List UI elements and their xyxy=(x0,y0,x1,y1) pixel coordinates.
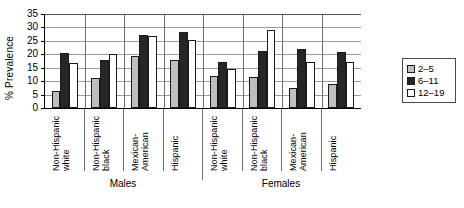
group-separator xyxy=(124,14,125,108)
bar xyxy=(100,60,109,108)
category-separator xyxy=(123,109,124,171)
plot-area xyxy=(44,14,361,109)
category-separator xyxy=(202,109,203,171)
y-axis-tick-label: 0 xyxy=(32,103,38,113)
category-separator xyxy=(163,109,164,171)
bar xyxy=(210,76,219,108)
bar xyxy=(139,35,148,108)
y-axis-tick-label: 10 xyxy=(27,76,38,86)
bar xyxy=(109,54,118,108)
category-separator xyxy=(242,109,243,171)
x-axis-category-label: Mexican- American xyxy=(289,109,308,171)
legend-item[interactable]: 2–5 xyxy=(407,63,452,74)
legend-item[interactable]: 6–11 xyxy=(407,75,452,86)
y-axis-tick-label: 30 xyxy=(27,22,38,32)
x-axis-category-label: Hispanic xyxy=(171,109,181,171)
x-axis-category-label: Hispanic xyxy=(329,109,339,171)
x-axis-group-label: Males xyxy=(44,178,202,189)
x-axis-category-label: Non-Hispanic black xyxy=(250,109,269,171)
group-separator xyxy=(322,14,323,108)
bar xyxy=(267,30,276,108)
group-separator xyxy=(164,14,165,108)
bar xyxy=(131,56,140,108)
category-separator xyxy=(281,109,282,171)
bar-group xyxy=(124,14,164,108)
group-label-separator xyxy=(202,170,203,180)
group-separator xyxy=(243,14,244,108)
group-separator xyxy=(85,14,86,108)
bar-group xyxy=(85,14,125,108)
bar-group xyxy=(322,14,362,108)
y-axis-tick-label: 5 xyxy=(32,90,38,100)
bar xyxy=(52,91,61,108)
x-axis-group-labels: MalesFemales xyxy=(44,174,360,196)
bar xyxy=(227,69,236,108)
category-separator xyxy=(321,109,322,171)
legend-label: 12–19 xyxy=(418,88,444,98)
bar xyxy=(179,32,188,108)
legend-item[interactable]: 12–19 xyxy=(407,87,452,98)
bar xyxy=(60,53,69,108)
bar-group xyxy=(243,14,283,108)
bar xyxy=(328,84,337,108)
group-separator xyxy=(203,14,204,108)
bar xyxy=(91,78,100,108)
bar xyxy=(258,51,267,108)
bar xyxy=(69,63,78,108)
bar xyxy=(170,60,179,108)
bar xyxy=(337,52,346,108)
x-axis-category-labels: Non-Hispanic whiteNon-Hispanic blackMexi… xyxy=(44,109,360,171)
bar xyxy=(306,62,315,108)
y-axis-tick-labels: 05101520253035 xyxy=(16,14,38,108)
y-axis-tick-label: 20 xyxy=(27,49,38,59)
legend-swatch-icon xyxy=(407,77,415,85)
y-axis-tick-label: 25 xyxy=(27,36,38,46)
chart-legend: 2–56–1112–19 xyxy=(402,58,456,103)
bar xyxy=(218,62,227,108)
y-axis-title: % Prevalence xyxy=(2,18,16,118)
x-axis-category-label: Non-Hispanic black xyxy=(92,109,111,171)
bar-group xyxy=(164,14,204,108)
group-separator xyxy=(282,14,283,108)
legend-label: 6–11 xyxy=(418,76,438,86)
bar xyxy=(148,36,157,108)
x-axis-group-label: Females xyxy=(202,178,360,189)
bar xyxy=(346,62,355,108)
category-separator xyxy=(84,109,85,171)
bar-group xyxy=(203,14,243,108)
chart-figure: % Prevalence 05101520253035 Non-Hispanic… xyxy=(0,0,464,208)
y-axis-tick-label: 15 xyxy=(27,63,38,73)
x-axis-category-label: Mexican- American xyxy=(131,109,150,171)
bar-group xyxy=(282,14,322,108)
legend-swatch-icon xyxy=(407,89,415,97)
bar-group xyxy=(45,14,85,108)
x-axis-category-label: Non-Hispanic white xyxy=(210,109,229,171)
legend-swatch-icon xyxy=(407,65,415,73)
bar xyxy=(249,77,258,108)
legend-label: 2–5 xyxy=(418,64,434,74)
bar xyxy=(297,49,306,108)
bar xyxy=(289,88,298,108)
bar xyxy=(188,40,197,108)
x-axis-category-label: Non-Hispanic white xyxy=(52,109,71,171)
bars-layer xyxy=(45,14,361,108)
y-axis-tick-label: 35 xyxy=(27,9,38,19)
